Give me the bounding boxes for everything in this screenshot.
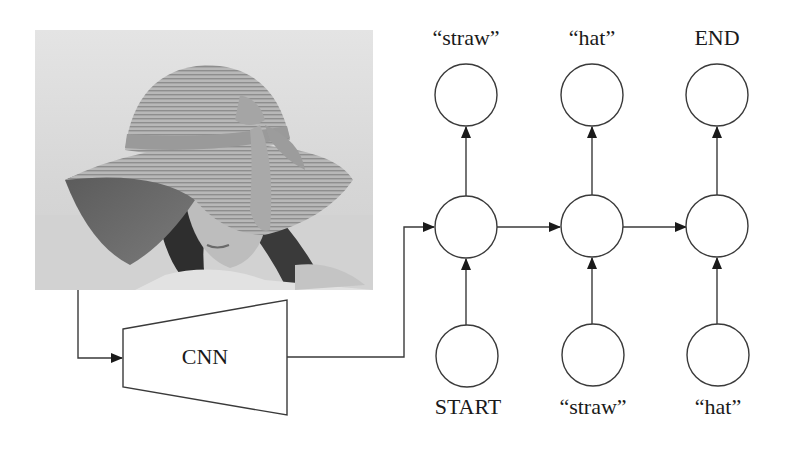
output-node-1 xyxy=(435,64,497,126)
output-label-3: END xyxy=(694,27,739,49)
input-node-1 xyxy=(436,325,498,387)
photo-to-cnn-arrow xyxy=(78,290,122,358)
input-label-1: START xyxy=(435,396,502,418)
input-label-2: “straw” xyxy=(559,396,626,418)
hidden-node-1 xyxy=(435,196,497,258)
diagram-graphics xyxy=(0,0,789,451)
hidden-node-2 xyxy=(561,195,623,257)
input-node-2 xyxy=(562,324,624,386)
cnn-label: CNN xyxy=(182,346,228,368)
output-label-1: “straw” xyxy=(432,27,499,49)
cnn-to-rnn-arrow xyxy=(287,227,434,357)
captioning-diagram: CNN “straw” “hat” END START “straw” “hat… xyxy=(0,0,789,451)
output-node-2 xyxy=(561,64,623,126)
input-node-3 xyxy=(687,324,749,386)
output-node-3 xyxy=(686,64,748,126)
hidden-node-3 xyxy=(686,195,748,257)
input-label-3: “hat” xyxy=(695,396,741,418)
output-label-2: “hat” xyxy=(569,27,615,49)
